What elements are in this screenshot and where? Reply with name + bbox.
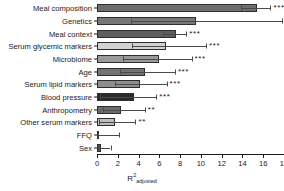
error-bar-cap	[119, 132, 120, 137]
error-bar-cap	[145, 107, 146, 112]
bar-row: ***	[97, 80, 284, 88]
error-bar-line	[99, 122, 135, 123]
error-bar-cap	[131, 18, 132, 23]
bar-row: ***	[97, 42, 284, 50]
x-tick-label: 16	[259, 159, 267, 168]
error-bar-line	[115, 84, 167, 85]
error-bar-line	[163, 34, 186, 35]
category-label: FFQ	[77, 131, 92, 140]
x-tick	[118, 155, 119, 158]
significance-marker: ***	[209, 42, 220, 50]
bar	[97, 4, 257, 12]
bar-row: ***	[97, 93, 284, 101]
bar-row: ***	[97, 30, 284, 38]
category-tick	[94, 122, 97, 123]
error-bar-cap	[192, 56, 193, 61]
error-bar-cap	[282, 18, 283, 23]
error-bar-line	[103, 110, 145, 111]
x-tick	[159, 155, 160, 158]
error-bar-cap	[103, 107, 104, 112]
significance-marker: **	[138, 118, 145, 126]
significance-marker: **	[148, 106, 155, 114]
error-bar-cap	[111, 145, 112, 150]
significance-marker: ***	[189, 30, 200, 38]
x-tick-label: 8	[178, 159, 182, 168]
error-bar-cap	[135, 120, 136, 125]
error-bar-line	[98, 135, 119, 136]
category-label: Microbiome	[53, 55, 92, 64]
chart-figure: **************************** 02468101214…	[0, 0, 284, 191]
error-bar-cap	[115, 82, 116, 87]
category-label: Anthropometry	[42, 105, 92, 114]
error-bar-cap	[98, 145, 99, 150]
error-bar-cap	[167, 82, 168, 87]
error-bar-cap	[100, 94, 101, 99]
significance-marker: ***	[170, 80, 181, 88]
error-bar-line	[123, 59, 192, 60]
category-tick	[94, 84, 97, 85]
bar-row: ***	[97, 68, 284, 76]
bar-row: ***	[97, 55, 284, 63]
error-bar-line	[98, 148, 110, 149]
x-axis-line	[97, 154, 284, 155]
bar-row	[97, 131, 284, 139]
category-label: Serum lipid markers	[24, 80, 92, 89]
x-tick-label: 0	[95, 159, 99, 168]
x-axis-title: R2adjusted	[0, 172, 284, 184]
x-axis-title-subscript: adjusted	[136, 178, 156, 184]
category-tick	[94, 46, 97, 47]
x-tick	[139, 155, 140, 158]
x-tick-label: 10	[197, 159, 205, 168]
category-label: Age	[78, 67, 92, 76]
bar-row: **	[97, 106, 284, 114]
error-bar-cap	[175, 69, 176, 74]
category-tick	[94, 147, 97, 148]
error-bar-cap	[123, 56, 124, 61]
category-tick	[94, 59, 97, 60]
x-tick-label: 12	[217, 159, 225, 168]
x-tick	[180, 155, 181, 158]
plot-area: ****************************	[97, 2, 284, 154]
category-label: Meal context	[49, 29, 92, 38]
significance-marker: ***	[273, 4, 284, 12]
category-label: Sex	[79, 143, 92, 152]
category-label: Meal composition	[33, 4, 92, 13]
error-bar-cap	[132, 44, 133, 49]
error-bar-cap	[270, 6, 271, 11]
category-tick	[94, 33, 97, 34]
error-bar-line	[241, 8, 270, 9]
category-tick	[94, 109, 97, 110]
bar-row	[97, 144, 284, 152]
bar-row: **	[97, 118, 284, 126]
bar-row: ***	[97, 17, 284, 25]
category-label: Serum glycemic markers	[8, 42, 92, 51]
category-label: Blood pressure	[41, 93, 92, 102]
category-tick	[94, 135, 97, 136]
x-tick-label: 14	[238, 159, 246, 168]
error-bar-cap	[186, 31, 187, 36]
x-tick-label: 2	[116, 159, 120, 168]
x-tick	[222, 155, 223, 158]
category-tick	[94, 97, 97, 98]
error-bar-line	[132, 46, 206, 47]
x-tick	[201, 155, 202, 158]
x-tick-label: 4	[136, 159, 140, 168]
error-bar-line	[131, 21, 282, 22]
x-tick	[263, 155, 264, 158]
category-label: Other serum markers	[20, 118, 92, 127]
x-tick-label: 18	[280, 159, 284, 168]
error-bar-cap	[120, 69, 121, 74]
category-tick	[94, 71, 97, 72]
error-bar-line	[100, 97, 156, 98]
category-label: Genetics	[62, 17, 92, 26]
significance-marker: ***	[159, 93, 170, 101]
significance-marker: ***	[195, 55, 206, 63]
error-bar-cap	[206, 44, 207, 49]
error-bar-cap	[99, 120, 100, 125]
error-bar-cap	[241, 6, 242, 11]
error-bar-cap	[98, 132, 99, 137]
x-tick	[97, 155, 98, 158]
category-tick	[94, 21, 97, 22]
bar-row: ***	[97, 4, 284, 12]
x-tick	[242, 155, 243, 158]
